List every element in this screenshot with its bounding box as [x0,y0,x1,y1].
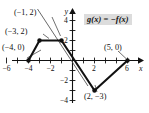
x-tick-label-6: 6 [125,65,129,73]
point-label-neg1-2: (−1, 2) [14,9,36,17]
x-tick-label-2: 2 [92,65,96,73]
x-tick-label--6: −6 [3,65,11,73]
y-tick-label--4: −4 [60,97,68,105]
y-tick-label-4: 4 [64,17,68,25]
x-axis-name: x [139,65,143,73]
leader-lines [27,17,126,92]
point-label-2-neg3: (2, −3) [84,93,106,101]
point-label-5-0: (5, 0) [104,44,122,52]
x-tick-label--2: −2 [47,65,55,73]
equation-label: g(x) = −f(x) [84,14,132,26]
y-axis-name: y [65,8,69,16]
point-label-neg3-2: (−3, 2) [5,28,27,36]
point-label-neg4-0: (−4, 0) [2,44,24,52]
y-tick-label--2: −2 [60,77,68,85]
thin-guide-line [38,9,89,86]
x-tick-label--4: −4 [25,65,33,73]
y-tick-label-2: 2 [64,37,68,45]
graph-figure: g(x) = −f(x) (−1, 2) (−3, 2) (−4, 0) (5,… [0,0,149,113]
